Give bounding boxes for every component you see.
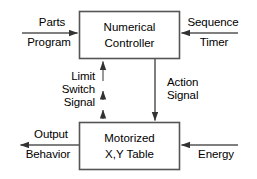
label-action-signal: Action Signal [167,76,229,102]
label-action-signal-line1: Action [167,76,229,89]
label-limit-switch-signal-line1: Limit [38,70,95,83]
label-behavior: Behavior [18,148,78,161]
label-sequence: Sequence [183,16,243,29]
label-limit-switch-signal-line2: Switch [38,83,95,96]
label-program: Program [20,36,78,49]
block-numerical-controller-line2: Controller [79,35,180,51]
label-output: Output [24,128,78,141]
block-numerical-controller-label: Numerical Controller [79,19,180,51]
label-energy: Energy [190,148,242,161]
label-limit-switch-signal: Limit Switch Signal [38,70,95,109]
block-motorized-table-label: Motorized X,Y Table [79,130,180,162]
label-parts: Parts [26,16,78,29]
block-diagram: Numerical Controller Motorized X,Y Table… [0,0,257,179]
block-numerical-controller-line1: Numerical [79,19,180,35]
block-motorized-table-line1: Motorized [79,130,180,146]
label-timer: Timer [188,36,240,49]
block-motorized-table-line2: X,Y Table [79,146,180,162]
label-action-signal-line2: Signal [167,89,229,102]
label-limit-switch-signal-line3: Signal [38,96,95,109]
